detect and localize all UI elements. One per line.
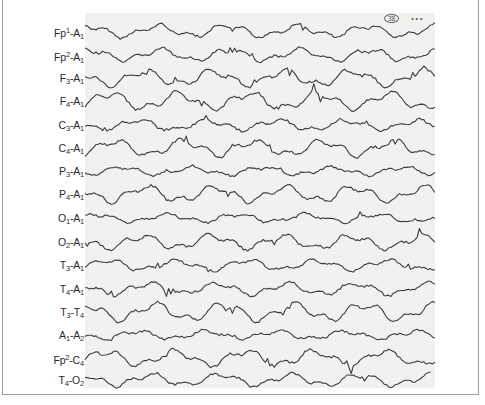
trace-f4-a1 [85, 84, 435, 112]
trace-a1-a2 [85, 329, 435, 340]
trace-t4-o2 [85, 372, 430, 388]
trace-fp1-a1 [85, 23, 435, 40]
circled-number: 38 [384, 14, 399, 23]
trace-c3-a1 [85, 116, 435, 132]
trace-f3-a1 [85, 66, 435, 88]
trace-t4-a1 [85, 281, 435, 297]
trace-fp2-c4 [85, 348, 435, 373]
trace-t3-a1 [85, 259, 435, 272]
page-stamp: 38 • • • [384, 14, 422, 23]
trace-t3-t4 [85, 301, 435, 323]
trace-p3-a1 [85, 165, 435, 177]
trace-c4-a1 [85, 136, 435, 158]
stamp-dots: • • • [411, 15, 422, 22]
trace-o1-a1 [85, 212, 435, 224]
trace-o2-a1 [85, 229, 435, 252]
trace-p4-a1 [85, 185, 435, 205]
trace-fp2-a1 [85, 47, 435, 63]
eeg-traces [0, 0, 485, 405]
